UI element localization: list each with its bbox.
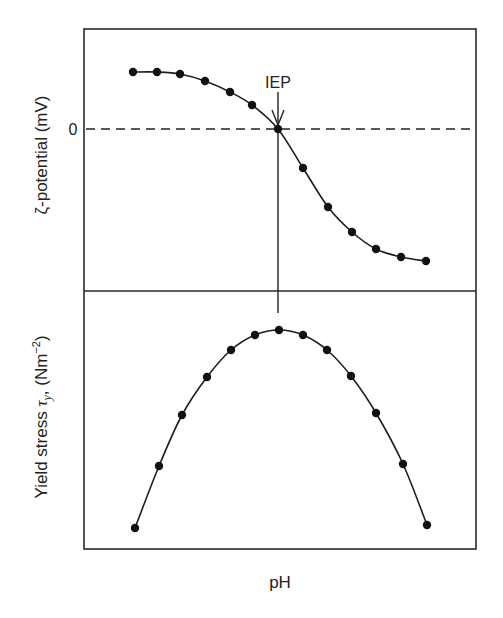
data-point <box>372 245 380 253</box>
data-point <box>155 462 163 470</box>
x-axis-label: pH <box>269 573 291 592</box>
yield-stress-axis-label: Yield stress τy, (Nm−2) <box>30 335 54 498</box>
zeta-potential-axis-label: ζ-potential (mV) <box>32 96 51 215</box>
chart-frame <box>84 29 476 549</box>
zeta-potential-points <box>129 68 430 265</box>
data-point <box>299 164 307 172</box>
zeta-potential-curve <box>133 72 426 261</box>
data-point <box>274 125 282 133</box>
data-point <box>397 253 405 261</box>
chart-canvas: IEP 0 ζ-potential (mV) Yield stress τy, … <box>0 0 503 618</box>
iep-label: IEP <box>265 74 291 91</box>
data-point <box>399 460 407 468</box>
data-point <box>203 373 211 381</box>
data-point <box>299 331 307 339</box>
data-point <box>226 88 234 96</box>
zero-tick-label: 0 <box>69 121 78 138</box>
data-point <box>423 521 431 529</box>
yield-stress-curve <box>135 330 427 528</box>
data-point <box>324 203 332 211</box>
data-point <box>248 101 256 109</box>
iep-arrow-icon <box>272 92 284 125</box>
data-point <box>131 524 139 532</box>
data-point <box>129 68 137 76</box>
data-point <box>251 331 259 339</box>
data-point <box>347 372 355 380</box>
data-point <box>201 77 209 85</box>
data-point <box>348 228 356 236</box>
data-point <box>178 411 186 419</box>
data-point <box>153 68 161 76</box>
data-point <box>323 346 331 354</box>
data-point <box>176 70 184 78</box>
data-point <box>227 346 235 354</box>
data-point <box>422 257 430 265</box>
data-point <box>372 409 380 417</box>
data-point <box>275 326 283 334</box>
